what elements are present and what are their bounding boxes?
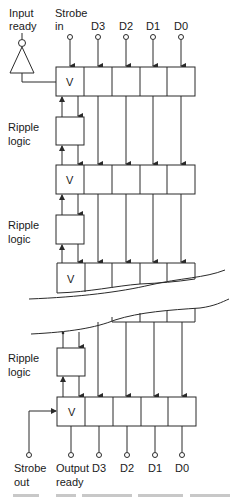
valid-bit-label: V [67, 273, 75, 285]
register-4: V [57, 397, 196, 426]
input-ready-inverter-icon [10, 33, 56, 82]
ripple-logic-label-line1: Ripple [8, 352, 39, 364]
output-ready-label-line1: Output [56, 462, 89, 474]
register-2: V [56, 165, 195, 194]
d2-out-label: D2 [120, 462, 134, 474]
ripple-logic-label-line2: logic [8, 233, 31, 245]
d3-out-label: D3 [92, 462, 106, 474]
ripple-logic-3: Ripple logic [8, 348, 85, 378]
d0-out-label: D0 [175, 462, 189, 474]
fifo-diagram: Input ready Strobe in D3 D2 D1 D0 V [0, 0, 241, 497]
ripple-logic-label-line1: Ripple [8, 219, 39, 231]
register-4-fragment [112, 308, 195, 322]
valid-bit-label: V [66, 174, 74, 186]
valid-bit-label: V [68, 406, 76, 418]
d0-in-label: D0 [174, 20, 188, 32]
output-pins [27, 426, 185, 458]
d1-out-label: D1 [148, 462, 162, 474]
input-ready-label-line1: Input [9, 7, 33, 19]
ripple-logic-1: Ripple logic [8, 117, 84, 147]
register-3: V [57, 263, 195, 293]
strobe-in-label-line1: Strobe [55, 7, 87, 19]
input-ready-label-line2: ready [9, 20, 37, 32]
ripple-logic-label-line2: logic [8, 366, 31, 378]
register-1: V [56, 67, 195, 96]
ripple-logic-label-line1: Ripple [8, 121, 39, 133]
valid-bit-label: V [66, 76, 74, 88]
ripple-logic-2: Ripple logic [8, 215, 84, 245]
input-pins [68, 35, 184, 67]
output-ready-label-line2: ready [56, 476, 84, 488]
d1-in-label: D1 [146, 20, 160, 32]
strobe-out-label-line2: out [14, 476, 29, 488]
d2-in-label: D2 [119, 20, 133, 32]
d3-in-label: D3 [91, 20, 105, 32]
strobe-out-label-line1: Strobe [14, 462, 46, 474]
ripple-logic-label-line2: logic [8, 135, 31, 147]
strobe-in-label-line2: in [55, 20, 64, 32]
